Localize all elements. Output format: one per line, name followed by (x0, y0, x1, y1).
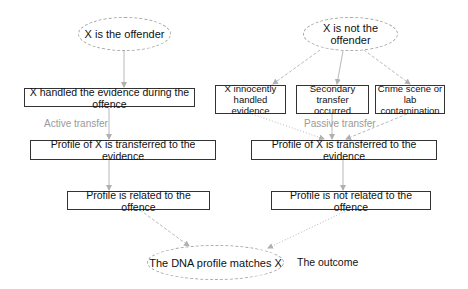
node-handled-during-text: X handled the evidence during the offenc… (25, 86, 194, 110)
node-secondary-transfer: Secondary transfer occurred (296, 85, 369, 114)
node-secondary-transfer-text: Secondary transfer occurred (297, 83, 368, 116)
label-passive-transfer: Passive transfer (304, 118, 376, 129)
edge-related-to-matches (140, 210, 189, 246)
dna-transfer-diagram: X is the offender X is not the offender … (0, 0, 468, 289)
node-matches-text: The DNA profile matches X (149, 257, 282, 269)
label-active-transfer: Active transfer (44, 118, 108, 129)
node-not-related-text: Profile is not related to the offence (272, 189, 430, 213)
node-transferred-right-text: Profile of X is transferred to the evide… (252, 138, 436, 162)
label-outcome: The outcome (297, 256, 358, 268)
node-transferred-right: Profile of X is transferred to the evide… (251, 140, 437, 160)
node-not-offender: X is not the offender (303, 17, 398, 51)
node-transferred-left-text: Profile of X is transferred to the evide… (31, 138, 215, 162)
edge-notrelated-to-matches (268, 210, 348, 248)
node-offender-text: X is the offender (85, 28, 165, 40)
node-offender: X is the offender (78, 17, 171, 51)
node-related-text: Profile is related to the offence (68, 189, 209, 213)
node-handled-during: X handled the evidence during the offenc… (24, 88, 195, 107)
edge-notoffender-to-contamination (364, 50, 410, 84)
node-contamination-text: Crime scene or lab contamination (376, 83, 444, 116)
edge-notoffender-to-innocent (273, 50, 320, 84)
node-innocently-handled-text: X innocently handled evidence (216, 83, 285, 116)
node-transferred-left: Profile of X is transferred to the evide… (30, 140, 216, 160)
node-matches: The DNA profile matches X (147, 245, 284, 280)
edge-notoffender-to-secondary (337, 51, 343, 84)
node-not-offender-text: X is not the offender (304, 22, 397, 46)
node-contamination: Crime scene or lab contamination (375, 85, 445, 114)
node-related: Profile is related to the offence (67, 191, 210, 210)
node-not-related: Profile is not related to the offence (271, 191, 431, 210)
node-innocently-handled: X innocently handled evidence (215, 85, 286, 114)
